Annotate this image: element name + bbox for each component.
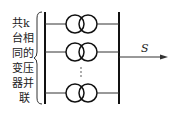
transformer-k [45,84,119,102]
output-arrow-icon [119,55,168,60]
ellipsis-dots-icon [80,67,82,77]
circuit-drawing [0,0,171,116]
transformer-1 [45,15,119,33]
output-power-label: S [141,42,149,55]
curly-brace-icon [34,12,42,104]
parallel-transformers-diagram: 共k 台相 同的 变压 器并 联 [0,0,171,116]
transformer-2 [45,43,119,61]
